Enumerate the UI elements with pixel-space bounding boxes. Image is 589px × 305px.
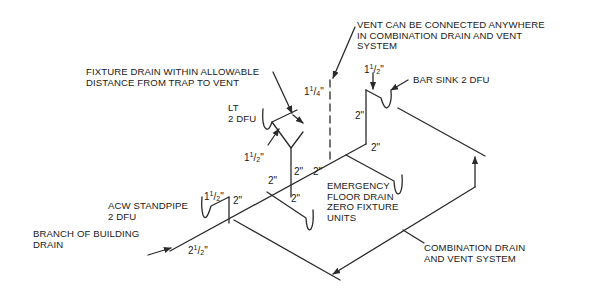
- acw-standpipe-label: ACW STANDPIPE 2 DFU: [108, 201, 188, 222]
- lt-arm-dim: 11/2": [244, 150, 264, 165]
- building-drain-dim: 21/2": [188, 243, 208, 258]
- bar-sink-leader: [391, 80, 408, 90]
- floor-drain-branch-dim: 2": [291, 194, 300, 204]
- main-mid-dim: 2": [313, 167, 322, 177]
- main-lower-dim: 2": [268, 176, 277, 186]
- dimension-line-lower: [234, 220, 340, 280]
- bar-sink-trap-arm: [366, 90, 391, 108]
- dimension-line-upper: [398, 108, 485, 156]
- bar-sink-label: BAR SINK 2 DFU: [413, 75, 490, 86]
- bar-sink-arm-dim: 11/2": [364, 62, 384, 77]
- combination-system-label: COMBINATION DRAIN AND VENT SYSTEM: [424, 243, 525, 264]
- acw-riser-dim: 2": [233, 196, 242, 206]
- upper-branch-dim: 2": [371, 143, 380, 153]
- fixture-note-leader-2: [293, 115, 303, 123]
- fixture-drain-note: FIXTURE DRAIN WITHIN ALLOWABLE DISTANCE …: [86, 67, 259, 88]
- lt-trap: [263, 109, 272, 129]
- lt-trap-arm: [272, 110, 303, 148]
- vent-size-dim: 11/4": [304, 84, 324, 99]
- vent-note: VENT CAN BE CONNECTED ANYWHERE IN COMBIN…: [357, 20, 545, 52]
- branch-drain-label: BRANCH OF BUILDING DRAIN: [33, 229, 139, 250]
- lt-label: LT 2 DFU: [228, 103, 256, 124]
- lt-arm-leader: [268, 129, 279, 145]
- fixture-note-leader: [273, 72, 292, 113]
- emergency-floor-drain-label: EMERGENCY FLOOR DRAIN ZERO FIXTURE UNITS: [327, 181, 399, 223]
- lt-riser-dim: 2": [294, 167, 303, 177]
- branch-drain-leader: [148, 248, 171, 255]
- combination-leader: [403, 230, 424, 243]
- vent-note-leader: [333, 27, 355, 78]
- acw-arm-dim: 11/2": [204, 189, 224, 204]
- bar-sink-riser-dim: 2": [355, 111, 364, 121]
